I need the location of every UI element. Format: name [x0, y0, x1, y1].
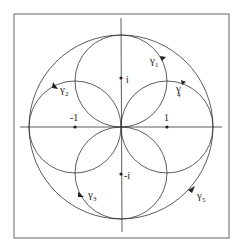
- point-1: [165, 125, 168, 128]
- label-gamma3: γ3: [87, 188, 97, 203]
- label-gamma2: γ2: [59, 83, 69, 98]
- label-gamma4: γ4: [175, 82, 181, 99]
- label-1: 1: [164, 112, 169, 123]
- point-i: [119, 76, 122, 79]
- label-minus-i: -i: [124, 170, 130, 181]
- point-minus-i: [119, 172, 122, 175]
- arrow-gamma3-icon: [78, 192, 84, 197]
- arrow-gamma2-icon: [52, 82, 58, 89]
- arrow-gamma5-icon: [188, 186, 195, 193]
- contour-diagram: i -i 1 -1 γ1 γ2 γ3 γ4 γ5: [0, 0, 243, 249]
- label-gamma1: γ1: [149, 54, 159, 69]
- label-gamma5: γ5: [196, 189, 206, 204]
- label-minus-1: -1: [70, 112, 78, 123]
- point-minus-1: [73, 125, 76, 128]
- label-i: i: [126, 74, 129, 85]
